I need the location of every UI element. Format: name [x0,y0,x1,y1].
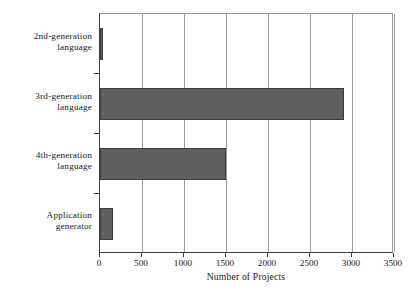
bar-1 [100,28,103,60]
bar-4 [100,208,113,240]
category-label-line: 4th-generation [0,150,92,161]
x-axis-tick [225,253,226,257]
category-label-application-generator: Application generator [0,210,92,231]
x-axis-tick [351,253,352,257]
gridline [394,14,395,252]
category-label-line: language [0,161,92,172]
category-label-line: Application [0,210,92,221]
x-axis-tick-label: 2500 [286,258,332,269]
x-axis-tick-label: 1500 [202,258,248,269]
bar-chart-figure: 2nd-generation language 3rd-generation l… [0,0,417,301]
gridline [184,14,185,252]
x-axis-title: Number of Projects [99,271,393,282]
x-axis-tick-label: 1000 [160,258,206,269]
bar-3 [100,148,226,180]
y-axis-tick [94,73,99,74]
category-label-line: generator [0,221,92,232]
x-axis-tick-label: 2000 [244,258,290,269]
x-axis-tick [183,253,184,257]
category-label-2nd-generation-language: 2nd-generation language [0,31,92,52]
gridline [310,14,311,252]
x-axis-tick-label: 3000 [328,258,374,269]
gridline [226,14,227,252]
x-axis-tick-label: 500 [118,258,164,269]
gridline [142,14,143,252]
x-axis-tick [393,253,394,257]
x-axis-tick [141,253,142,257]
category-label-4th-generation-language: 4th-generation language [0,150,92,171]
x-axis-tick-label: 3500 [370,258,416,269]
category-label-line: language [0,102,92,113]
category-label-line: language [0,42,92,53]
gridline [352,14,353,252]
category-label-line: 3rd-generation [0,91,92,102]
x-axis-tick [309,253,310,257]
y-axis-tick [94,193,99,194]
x-axis-tick [267,253,268,257]
bar-2 [100,88,344,120]
y-axis-tick [94,133,99,134]
x-axis-tick [99,253,100,257]
category-label-line: 2nd-generation [0,31,92,42]
category-label-3rd-generation-language: 3rd-generation language [0,91,92,112]
gridline [268,14,269,252]
plot-area [99,13,393,253]
x-axis-tick-label: 0 [76,258,122,269]
